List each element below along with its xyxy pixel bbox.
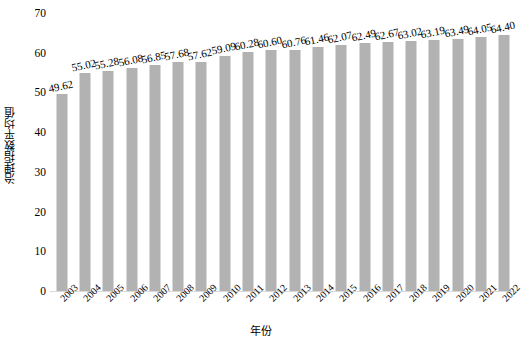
bar-chart: 治理指数平均值 010203040506070 49.6255.0255.285… <box>0 0 521 345</box>
bar <box>476 37 487 291</box>
bar-group: 60.60 <box>260 13 283 291</box>
bar-group: 62.67 <box>376 13 399 291</box>
bar-value-label: 62.07 <box>327 28 354 45</box>
bar <box>219 56 230 291</box>
bar-group: 55.02 <box>73 13 96 291</box>
bar-group: 61.46 <box>306 13 329 291</box>
bar-group: 64.40 <box>493 13 516 291</box>
bar <box>243 52 254 291</box>
y-tick-label: 50 <box>20 86 46 98</box>
bar-group: 64.05 <box>469 13 492 291</box>
bar-value-label: 49.62 <box>47 78 74 95</box>
bar-value-label: 62.49 <box>350 27 377 44</box>
bar <box>196 62 207 291</box>
bar-group: 63.49 <box>446 13 469 291</box>
y-tick-label: 20 <box>20 206 46 218</box>
bar <box>289 50 300 291</box>
bar-group: 62.49 <box>353 13 376 291</box>
bar <box>126 68 137 291</box>
bar <box>382 42 393 291</box>
bar <box>173 62 184 291</box>
x-axis-title: 年份 <box>0 322 521 338</box>
bar-group: 60.76 <box>283 13 306 291</box>
bar <box>359 43 370 291</box>
bar-group: 49.62 <box>50 13 73 291</box>
y-tick-label: 0 <box>20 285 46 297</box>
y-axis-title-text: 治理指数平均值 <box>3 107 19 184</box>
y-axis-title: 治理指数平均值 <box>0 0 22 291</box>
bar <box>79 73 90 292</box>
plot-area: 49.6255.0255.2856.0856.8557.6857.6259.09… <box>50 13 516 291</box>
bar <box>56 94 67 291</box>
bar-value-label: 63.19 <box>420 24 447 41</box>
bar <box>103 71 114 291</box>
bar-group: 63.19 <box>423 13 446 291</box>
bar-value-label: 63.02 <box>397 24 424 41</box>
y-tick-label: 30 <box>20 166 46 178</box>
bar-value-label: 55.28 <box>94 55 121 72</box>
bar-group: 62.07 <box>330 13 353 291</box>
y-tick-label: 40 <box>20 126 46 138</box>
y-tick-label: 60 <box>20 47 46 59</box>
bar <box>452 39 463 291</box>
y-tick-label: 10 <box>20 245 46 257</box>
bar-group: 57.62 <box>190 13 213 291</box>
bar <box>312 47 323 291</box>
bar-group: 60.28 <box>236 13 259 291</box>
bar-group: 55.28 <box>97 13 120 291</box>
bar-value-label: 60.60 <box>257 34 284 51</box>
bar-value-label: 57.62 <box>187 46 214 63</box>
bar <box>336 45 347 292</box>
y-tick-label: 70 <box>20 7 46 19</box>
bar <box>429 40 440 291</box>
bar-group: 56.85 <box>143 13 166 291</box>
bar <box>499 35 510 291</box>
bar <box>406 41 417 291</box>
bar-value-label: 62.67 <box>373 26 400 43</box>
bar-value-label: 64.40 <box>490 19 517 36</box>
bar-group: 59.09 <box>213 13 236 291</box>
bar-group: 63.02 <box>400 13 423 291</box>
bar <box>149 65 160 291</box>
bar <box>266 50 277 291</box>
